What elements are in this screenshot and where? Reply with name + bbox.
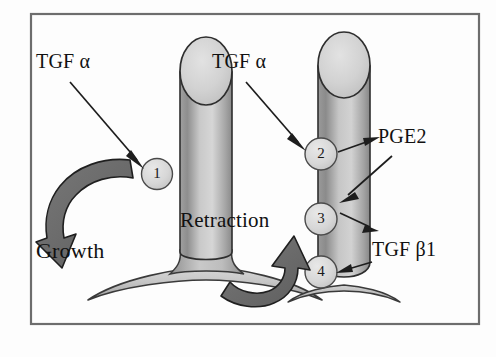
marker-number-1: 1	[144, 166, 170, 181]
label-tgf-alpha-left: TGF α	[36, 51, 90, 71]
label-tgf-alpha-right: TGF α	[212, 51, 266, 71]
label-tgf-beta1: TGF β1	[372, 239, 436, 259]
label-retraction: Retraction	[180, 210, 269, 231]
label-growth: Growth	[36, 240, 104, 262]
label-pge2: PGE2	[378, 126, 427, 146]
marker-number-3: 3	[308, 211, 334, 226]
figure-root: TGF α TGF α PGE2 TGF β1 Growth Retractio…	[0, 0, 496, 357]
marker-number-2: 2	[308, 146, 334, 161]
right-villus-tip-cap	[318, 32, 370, 98]
marker-number-4: 4	[308, 264, 334, 279]
